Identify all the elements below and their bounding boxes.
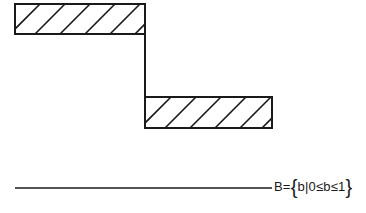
bottom-hatched-block [140,97,293,128]
close-brace: } [346,176,353,198]
set-prefix: B= [274,179,291,194]
set-body: b|0≤b≤1 [298,179,346,194]
top-hatched-block [10,4,165,34]
set-definition-label: B={b|0≤b≤1} [274,176,352,199]
open-brace: { [291,176,298,198]
